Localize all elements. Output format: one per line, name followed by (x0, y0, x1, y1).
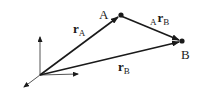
point-B-dot (179, 38, 184, 43)
diagram-svg: A B rA ArB rB (0, 0, 200, 88)
label-A-r-B: ArB (150, 10, 169, 27)
point-B-label: B (181, 47, 190, 62)
label-r-A: rA (73, 21, 86, 38)
axis-out (24, 75, 40, 87)
point-A-label: A (99, 7, 109, 22)
coordinate-axes (24, 37, 78, 87)
label-r-B: rB (118, 59, 130, 76)
point-A-dot (118, 12, 123, 17)
relative-position-diagram: A B rA ArB rB (0, 0, 200, 88)
